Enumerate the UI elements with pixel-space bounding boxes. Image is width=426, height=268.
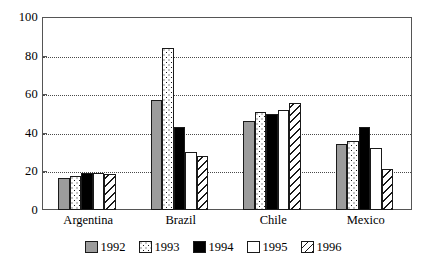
bar-chart: 020406080100 ArgentinaBrazilChileMexico … — [0, 0, 426, 268]
x-tick-label-chile: Chile — [227, 213, 320, 228]
bar-chile-1995 — [278, 110, 290, 210]
legend-label-1995: 1995 — [263, 241, 288, 254]
legend-item-1992[interactable]: 1992 — [85, 241, 126, 254]
bar-argentina-1994 — [81, 173, 93, 210]
bar-mexico-1996 — [382, 169, 394, 210]
bars-layer — [42, 17, 412, 210]
bar-chile-1994 — [266, 114, 278, 211]
y-tick-label-40: 40 — [0, 127, 38, 139]
x-tick-label-brazil: Brazil — [135, 213, 228, 228]
x-tick-label-argentina: Argentina — [42, 213, 135, 228]
bar-brazil-1995 — [185, 152, 197, 210]
bar-argentina-1993 — [70, 176, 82, 210]
legend-item-1993[interactable]: 1993 — [139, 241, 180, 254]
legend-swatch-1993 — [139, 241, 152, 253]
bar-brazil-1993 — [162, 48, 174, 210]
bar-brazil-1996 — [197, 156, 209, 210]
legend-label-1992: 1992 — [101, 241, 126, 254]
bar-chile-1993 — [255, 112, 267, 210]
bar-group-mexico — [320, 17, 413, 210]
y-tick-label-20: 20 — [0, 165, 38, 177]
bar-argentina-1992 — [58, 178, 70, 210]
bar-argentina-1996 — [104, 174, 116, 210]
bar-mexico-1993 — [347, 141, 359, 210]
bar-brazil-1992 — [151, 100, 163, 210]
legend-label-1993: 1993 — [155, 241, 180, 254]
legend-swatch-1992 — [85, 241, 98, 253]
x-axis-category-labels: ArgentinaBrazilChileMexico — [42, 213, 412, 231]
legend-item-1995[interactable]: 1995 — [247, 241, 288, 254]
bar-group-chile — [227, 17, 320, 210]
bar-mexico-1994 — [359, 127, 371, 210]
legend-swatch-1996 — [301, 241, 314, 253]
legend-swatch-1995 — [247, 241, 260, 253]
legend-label-1994: 1994 — [209, 241, 234, 254]
y-tick-label-60: 60 — [0, 88, 38, 100]
y-tick-label-80: 80 — [0, 50, 38, 62]
chart-legend: 19921993199419951996 — [0, 236, 426, 258]
bar-mexico-1995 — [370, 148, 382, 210]
bar-mexico-1992 — [336, 144, 348, 210]
bar-group-brazil — [135, 17, 228, 210]
y-tick-label-0: 0 — [0, 204, 38, 216]
legend-item-1994[interactable]: 1994 — [193, 241, 234, 254]
y-axis: 020406080100 — [0, 0, 38, 268]
legend-swatch-1994 — [193, 241, 206, 253]
bar-chile-1996 — [289, 103, 301, 210]
legend-item-1996[interactable]: 1996 — [301, 241, 342, 254]
bar-chile-1992 — [243, 121, 255, 210]
bar-group-argentina — [42, 17, 135, 210]
y-tick-label-100: 100 — [0, 11, 38, 23]
bar-brazil-1994 — [174, 127, 186, 210]
legend-label-1996: 1996 — [317, 241, 342, 254]
x-tick-label-mexico: Mexico — [320, 213, 413, 228]
bar-argentina-1995 — [93, 173, 105, 210]
